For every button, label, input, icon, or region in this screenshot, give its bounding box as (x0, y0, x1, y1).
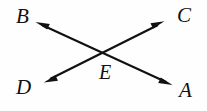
arrowhead-toward-c (151, 21, 165, 28)
arrowhead-toward-a (158, 78, 172, 86)
vertex-label-e: E (99, 62, 111, 83)
geometry-figure: B C D A E (0, 0, 207, 111)
vertex-label-d: D (16, 77, 31, 98)
vertex-label-a: A (179, 80, 192, 101)
vertex-label-b: B (16, 6, 29, 27)
arrowhead-toward-b (35, 22, 49, 30)
vertex-label-c: C (177, 5, 191, 26)
arrowhead-toward-d (44, 75, 58, 82)
